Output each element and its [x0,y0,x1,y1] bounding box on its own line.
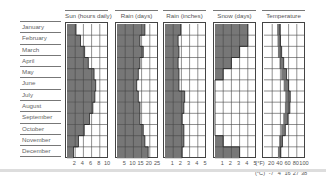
tick-label: 10 [104,160,110,166]
tick-label: 15 [137,160,143,166]
tick-label: 2 [73,160,76,166]
tick-label: 4 [245,160,248,166]
x-ticks: 12345 [213,160,256,168]
panel-snow: Snow (days) 12345 [213,10,256,172]
tick-label: 4 [195,160,198,166]
tick-label: 2 [229,160,232,166]
panel-title: Rain (days) [115,10,158,22]
plot-rain-inches [163,22,206,158]
plot-snow [213,22,256,158]
tick-label: 4 [81,160,84,166]
x-ticks-fahrenheit: 20406080100(°F) [262,160,305,168]
tick-label: 3 [187,160,190,166]
month-label: November [20,134,61,145]
month-label: April [20,55,61,66]
tick-label: 5 [123,160,126,166]
tick-label: 8 [97,160,100,166]
x-ticks: 12345 [163,160,206,168]
grid-lines [264,24,305,158]
panel-title: Snow (days) [213,10,256,22]
tick-label: 5 [203,160,206,166]
plot-temperature [262,22,305,158]
tick-label: 20 [146,160,152,166]
tick-label: 6 [89,160,92,166]
month-label: August [20,100,61,111]
plot-sun [65,22,108,158]
tick-label: 1 [171,160,174,166]
tick-label: 100 [299,160,308,166]
tick-label: 3 [237,160,240,166]
x-ticks: 510152025 [115,160,158,168]
month-label: January [20,21,61,32]
month-label: March [20,44,61,55]
panel-title: Temperature [262,10,305,22]
month-label: June [20,77,61,88]
tick-label: 1 [221,160,224,166]
bottom-divider [0,169,326,172]
panel-rain-days: Rain (days) 510152025 [115,10,158,172]
unit-label: (°F) [255,160,264,166]
month-label: October [20,123,61,134]
panel-rain-inches: Rain (inches) 12345 [163,10,206,172]
panel-sun: Sun (hours daily) 246810 [65,10,108,172]
month-label: May [20,66,61,77]
tick-label: 2 [179,160,182,166]
tick-label: 25 [154,160,160,166]
tick-label: 80 [293,160,299,166]
x-ticks: 246810 [65,160,108,168]
panel-temperature: Temperature 20406080100(°F) -74162738(°C… [262,10,305,177]
tick-label: 40 [276,160,282,166]
month-label: July [20,89,61,100]
month-label: December [20,145,61,156]
plot-rain-days [115,22,158,158]
month-label: September [20,111,61,122]
panel-title: Sun (hours daily) [65,10,108,22]
tick-label: 20 [268,160,274,166]
tick-label: 60 [284,160,290,166]
panel-title: Rain (inches) [163,10,206,22]
tick-label: 10 [129,160,135,166]
month-label: February [20,32,61,43]
month-labels: JanuaryFebruaryMarchAprilMayJuneJulyAugu… [20,21,61,157]
